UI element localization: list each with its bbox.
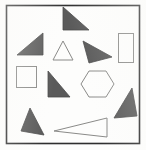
- shapes-figure-canvas: [0, 0, 146, 150]
- shapes-figure-svg: [0, 0, 146, 150]
